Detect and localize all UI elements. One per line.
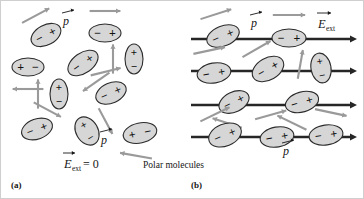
molecule-b7: −+: [283, 88, 321, 117]
vector-arrowhead-pb-top: [259, 11, 262, 15]
molecule-a10: +−: [121, 120, 158, 147]
molecule-a9: +−: [70, 113, 104, 150]
molecule-body-a10: [121, 120, 158, 147]
molecule-body-b6: [215, 86, 253, 118]
molecule-charge-first-b2: −: [278, 31, 285, 45]
molecule-a1: −+: [27, 19, 65, 52]
molecule-a8: −+: [19, 114, 56, 144]
molecule-body-b8: [205, 118, 245, 151]
panel-a-p-top: p: [62, 14, 69, 28]
panel-a-dipole-label-bottom: p: [100, 128, 112, 148]
panel-a-p-bottom: p: [100, 133, 107, 147]
molecule-b9: −+: [259, 124, 296, 150]
field-line-arrowhead-line1: [350, 35, 357, 42]
panel-b-key: (b): [191, 180, 202, 190]
molecule-body-b7: [283, 88, 321, 117]
field-line-arrowhead-line4: [350, 133, 357, 140]
molecule-charge-second-a6: −: [56, 95, 62, 107]
molecule-body-b10: [308, 123, 344, 148]
molecule-body-a7: [92, 77, 129, 108]
molecule-body-b3: [196, 60, 233, 86]
panel-b-field-symbol: E: [317, 17, 326, 31]
molecule-charge-first-a5: +: [131, 46, 137, 58]
dipole-arrow-a10: [120, 153, 152, 159]
field-line-arrowhead-line2: [350, 67, 357, 74]
molecule-a3: +−: [12, 58, 44, 76]
molecule-charge-second-b2: +: [293, 31, 300, 45]
molecule-b2: −+: [272, 29, 306, 47]
molecule-body-a8: [19, 114, 56, 144]
dipole-arrow-a1: [22, 8, 49, 22]
panel-a-key: (a): [11, 180, 22, 190]
molecule-b8: −+: [205, 118, 245, 151]
molecule-charge-second-a3: −: [32, 60, 39, 74]
vector-arrowhead-pa-top: [71, 9, 74, 13]
dipole-arrow-b10: [315, 109, 347, 116]
panel-a-caption-subscript: ext: [72, 164, 82, 173]
molecule-charge-first-a6: +: [56, 81, 62, 93]
vector-arrowhead-eext: [328, 11, 331, 15]
molecule-b6: −+: [215, 86, 253, 118]
panel-b-field-subscript: ext: [326, 24, 336, 33]
molecule-a2: −+: [89, 24, 121, 42]
panel-b-dipole-label-top: p: [250, 11, 262, 31]
molecule-charge-second-a5: −: [131, 60, 137, 72]
dipole-arrowhead-a6: [35, 79, 40, 83]
molecule-b5: +−: [309, 51, 334, 84]
molecule-charge-first-a3: +: [17, 60, 24, 74]
vector-arrowhead-a: [72, 151, 75, 155]
molecule-charge-second-a2: +: [109, 26, 116, 40]
molecule-b3: −+: [196, 60, 233, 86]
dipole-arrowhead-a5: [110, 44, 115, 48]
physics-figure-polar-molecules: −+−++−−++−+−−+−++−+− −+−+−+−++−−+−+−+−+−…: [0, 0, 364, 199]
panel-a-dipole-label-top: p: [62, 9, 74, 29]
molecule-body-b9: [259, 124, 296, 150]
figure-canvas: −+−++−−++−+−−+−++−+− −+−+−+−++−−+−+−+−+−…: [1, 1, 364, 199]
panel-a-caption-symbol: E: [63, 157, 72, 171]
panel-a-caption-rest: = 0: [83, 157, 99, 171]
molecule-a4: −+: [63, 45, 102, 81]
dipole-arrowhead-a2: [116, 8, 120, 13]
panel-a-caption: E ext = 0: [63, 151, 99, 173]
dipole-arrowhead-a3: [13, 86, 17, 91]
panel-b-p-bottom: p: [282, 144, 289, 158]
panel-b-field-label: E ext: [317, 11, 336, 33]
molecule-body-b4: [248, 51, 288, 87]
panel-b-p-top: p: [250, 16, 257, 30]
molecule-a6: +−: [50, 79, 68, 109]
molecule-a7: −+: [92, 77, 129, 108]
dipole-arrow-b4: [242, 41, 270, 57]
molecule-b4: −+: [248, 51, 288, 87]
dipole-arrow-b3: [193, 47, 225, 54]
molecule-a5: +−: [125, 44, 143, 74]
molecule-b10: −+: [308, 123, 344, 148]
field-line-arrowhead-line3: [350, 101, 357, 108]
panel-a: −+−++−−++−+−−+−++−+−: [12, 8, 159, 158]
panel-b-caption: Polar molecules: [143, 160, 204, 170]
dipole-arrowhead-b2: [301, 12, 305, 17]
molecule-charge-first-a2: −: [94, 26, 101, 40]
dipole-arrow-b1: [201, 9, 232, 19]
molecule-body-a9: [70, 113, 104, 150]
